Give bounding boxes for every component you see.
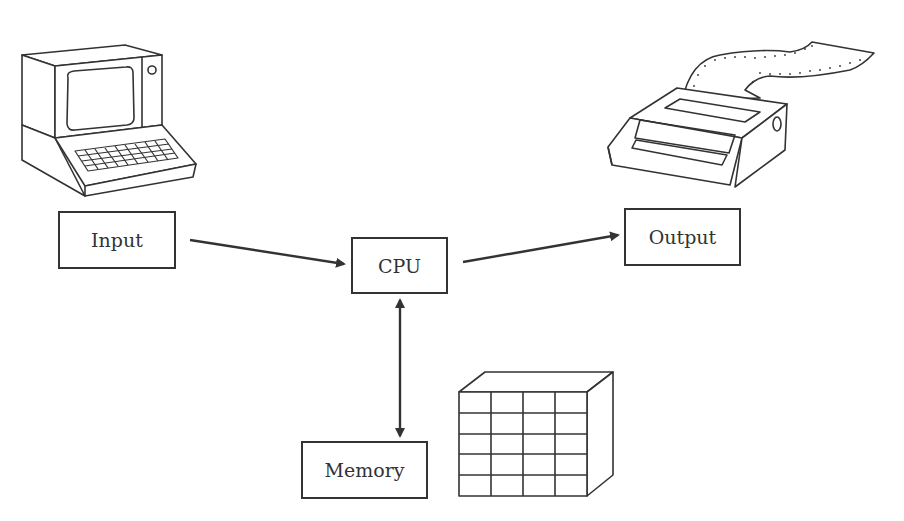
printer-icon — [608, 42, 874, 187]
cpu-box: CPU — [351, 237, 448, 294]
arrow-cpu-to-output — [463, 235, 618, 262]
cpu-label: CPU — [378, 255, 421, 277]
input-label: Input — [91, 229, 143, 251]
output-box: Output — [624, 208, 741, 266]
input-box: Input — [58, 211, 176, 269]
arrow-input-to-cpu — [190, 240, 344, 264]
memory-box: Memory — [301, 441, 428, 499]
memory-grid-cube-icon — [459, 372, 613, 496]
memory-label: Memory — [325, 459, 405, 481]
output-label: Output — [649, 226, 716, 248]
computer-terminal-icon — [22, 45, 196, 196]
